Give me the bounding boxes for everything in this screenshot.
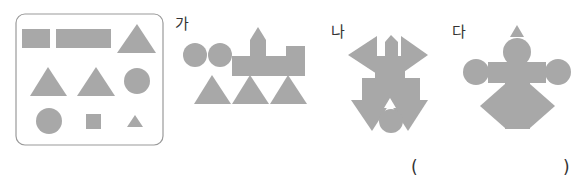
panel-square: [86, 114, 101, 129]
panel-circle-1: [124, 68, 150, 94]
da-hat-triangle: [510, 25, 524, 37]
da-right-hand-circle: [545, 59, 571, 85]
da-right-skirt-triangle: [530, 84, 555, 128]
option-label-da: 다: [452, 25, 466, 40]
na-left-triangle: [348, 36, 377, 74]
da-arm-rectangle: [488, 62, 546, 83]
na-spire-top: [385, 35, 398, 42]
da-left-hand-circle: [463, 59, 489, 85]
ga-circle-1: [183, 43, 207, 67]
answer-blank[interactable]: [425, 157, 557, 177]
ga-chimney-top: [250, 27, 266, 40]
panel-circle-2: [36, 108, 62, 134]
ga-body-rectangle: [232, 56, 286, 76]
ga-chimney: [250, 40, 266, 56]
na-right-triangle: [401, 36, 428, 74]
answer-close-paren: ): [563, 159, 570, 176]
figure-da: [463, 25, 571, 129]
na-center-rectangle: [375, 56, 405, 78]
figure-ga: [183, 27, 307, 104]
figure-canvas: [0, 0, 578, 183]
ga-wheel-triangle-1: [194, 75, 231, 104]
ga-wheel-triangle-2: [232, 75, 269, 104]
figure-na: [348, 35, 428, 133]
option-label-ga: 가: [175, 17, 189, 32]
na-circle: [379, 109, 403, 133]
panel-rectangle-2: [56, 29, 111, 48]
answer-open-paren: (: [411, 159, 418, 176]
panel-rectangle-1: [22, 29, 50, 48]
da-head-circle: [503, 38, 531, 66]
option-label-na: 나: [331, 25, 345, 40]
da-left-skirt-triangle: [480, 84, 505, 128]
ga-circle-2: [208, 43, 232, 67]
ga-wheel-triangle-3: [270, 75, 307, 104]
ga-cabin: [286, 46, 305, 76]
shape-panel: [16, 14, 163, 145]
na-wide-rectangle: [362, 78, 420, 100]
da-body-rectangle: [505, 83, 530, 129]
